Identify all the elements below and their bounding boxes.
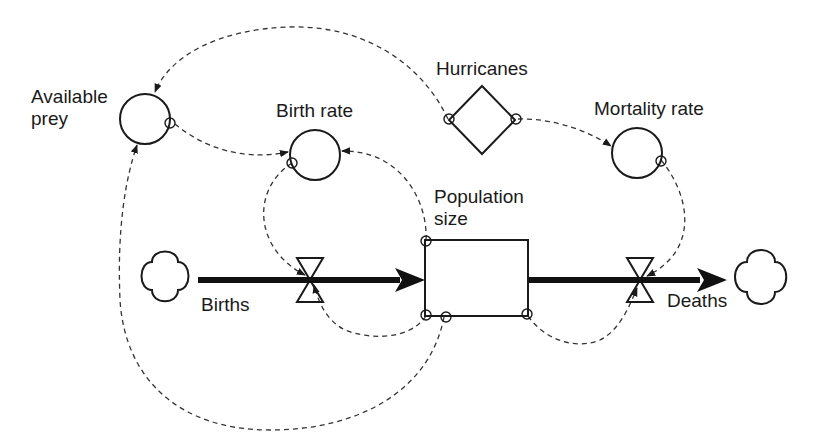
- deaths-label-text: Deaths: [667, 290, 727, 312]
- population-size-stock[interactable]: [425, 240, 528, 316]
- population-size-label-line1: Population: [434, 186, 524, 208]
- mortality-rate-label: Mortality rate: [594, 98, 704, 120]
- stock-flow-diagram: [0, 0, 818, 447]
- link-population-to-deaths: [528, 288, 637, 344]
- link-available-prey-to-birth-rate: [175, 124, 288, 155]
- available-prey-label-line1: Available: [31, 86, 108, 108]
- sink-cloud-icon: [735, 250, 786, 304]
- link-population-to-birth-rate: [342, 151, 426, 240]
- births-label: Births: [201, 294, 250, 316]
- link-hurricanes-to-mortality-rate: [518, 119, 611, 146]
- hurricanes-driving-variable[interactable]: [449, 86, 515, 154]
- birth-rate-label: Birth rate: [276, 100, 353, 122]
- hurricanes-label-text: Hurricanes: [436, 58, 528, 80]
- hurricanes-label: Hurricanes: [436, 58, 528, 80]
- available-prey-label-line2: prey: [31, 108, 108, 130]
- births-label-text: Births: [201, 294, 250, 316]
- connector-ports: [165, 114, 666, 322]
- link-population-to-births: [314, 285, 426, 336]
- available-prey-converter[interactable]: [120, 94, 170, 144]
- mortality-rate-converter[interactable]: [612, 128, 662, 178]
- link-population-to-available-prey: [119, 145, 444, 430]
- deaths-flow-arrowhead: [697, 268, 727, 292]
- birth-rate-converter[interactable]: [290, 130, 340, 180]
- population-size-label: Population size: [434, 186, 524, 230]
- birth-rate-label-text: Birth rate: [276, 100, 353, 122]
- deaths-label: Deaths: [667, 290, 727, 312]
- source-cloud-icon: [142, 252, 189, 302]
- available-prey-label: Available prey: [31, 86, 108, 130]
- population-size-label-line2: size: [434, 208, 524, 230]
- mortality-rate-label-text: Mortality rate: [594, 98, 704, 120]
